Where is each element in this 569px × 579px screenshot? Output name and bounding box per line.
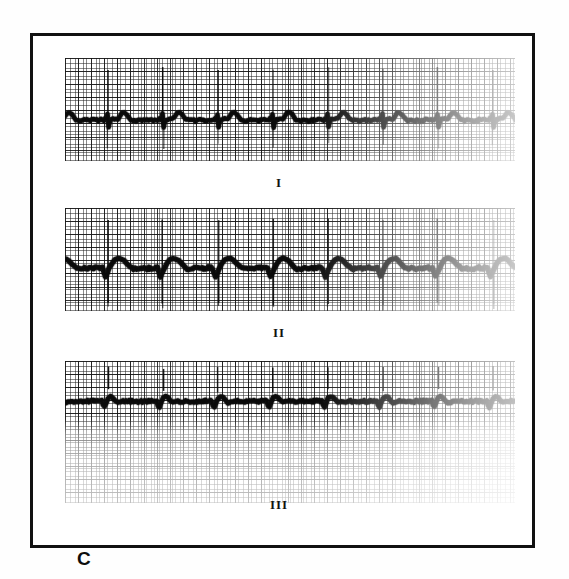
lead-label-i: I	[259, 175, 299, 191]
lead-label-ii: II	[259, 325, 299, 341]
ecg-trace-lead-i	[65, 58, 515, 161]
ecg-figure: I II III C	[0, 0, 569, 579]
ecg-strip-lead-ii	[65, 208, 515, 311]
ecg-trace-lead-ii	[65, 208, 515, 311]
ecg-strip-lead-iii	[65, 361, 515, 503]
ecg-trace-lead-iii	[65, 361, 515, 503]
lead-label-iii: III	[259, 497, 299, 513]
figure-frame: I II III C	[30, 33, 535, 548]
figure-panel-label: C	[77, 548, 91, 570]
ecg-strip-lead-i	[65, 58, 515, 161]
